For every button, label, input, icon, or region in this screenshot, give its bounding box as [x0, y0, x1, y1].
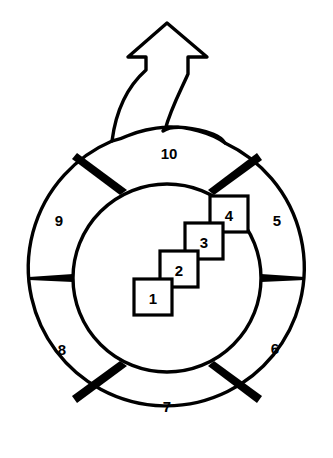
segment-label-5: 5 — [273, 212, 281, 229]
box-label-3: 3 — [200, 234, 208, 251]
diagram-canvas: 5 6 7 8 9 10 4 3 2 1 — [0, 0, 333, 458]
breakout-arrow-shape — [112, 23, 225, 143]
segment-label-7: 7 — [163, 398, 171, 415]
box-label-1: 1 — [149, 290, 157, 307]
divider-5-6 — [261, 274, 305, 282]
divider-10-5 — [208, 153, 262, 195]
box-label-4: 4 — [225, 207, 234, 224]
ring-outline-group — [28, 23, 304, 406]
cycle-diagram: 5 6 7 8 9 10 4 3 2 1 — [0, 0, 333, 458]
divider-8-9 — [29, 274, 73, 282]
stacked-boxes-group: 4 3 2 1 — [134, 196, 248, 315]
segment-label-10: 10 — [161, 145, 178, 162]
box-label-2: 2 — [175, 262, 183, 279]
segment-label-6: 6 — [271, 340, 279, 357]
segment-label-9: 9 — [55, 212, 63, 229]
box-1-group: 1 — [134, 279, 172, 315]
segment-label-8: 8 — [58, 341, 66, 358]
divider-9-10 — [72, 153, 127, 195]
